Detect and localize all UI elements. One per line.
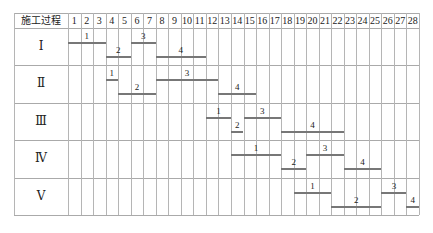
work-bar-label: 1	[206, 106, 231, 116]
grid-line	[14, 65, 419, 66]
header-day: 26	[381, 13, 394, 28]
header-day: 19	[294, 13, 307, 28]
work-bar-label: 3	[244, 106, 282, 116]
work-bar	[344, 168, 382, 170]
grid-line	[14, 13, 419, 14]
work-bar-label: 2	[106, 45, 131, 55]
work-bar	[231, 154, 281, 156]
work-bar-label: 1	[106, 68, 119, 78]
grid-line	[419, 13, 420, 215]
header-day: 2	[81, 13, 94, 28]
process-row-label: Ⅳ	[14, 140, 68, 177]
grid-line	[14, 28, 419, 29]
header-day: 28	[406, 13, 419, 28]
header-day: 23	[344, 13, 357, 28]
work-bar	[218, 93, 256, 95]
work-bar	[244, 117, 282, 119]
grid-line	[156, 13, 157, 215]
process-row-label: Ⅱ	[14, 65, 68, 102]
grid-line	[14, 103, 419, 104]
header-day: 15	[244, 13, 257, 28]
grid-line	[168, 13, 169, 215]
header-day: 21	[319, 13, 332, 28]
work-bar-label: 2	[281, 157, 306, 167]
header-day: 20	[306, 13, 319, 28]
work-bar	[106, 56, 131, 58]
work-bar	[118, 93, 156, 95]
work-bar-label: 2	[118, 82, 156, 92]
work-bar	[206, 117, 231, 119]
grid-line	[281, 13, 282, 215]
grid-line	[331, 13, 332, 215]
header-day: 6	[131, 13, 144, 28]
work-bar	[106, 79, 119, 81]
grid-line	[406, 13, 407, 215]
header-day: 17	[269, 13, 282, 28]
grid-line	[106, 13, 107, 215]
header-day: 22	[331, 13, 344, 28]
work-bar-label: 4	[156, 45, 206, 55]
work-bar-label: 4	[218, 82, 256, 92]
header-day: 16	[256, 13, 269, 28]
header-day: 12	[206, 13, 219, 28]
gantt-schedule-table: 施工过程 12345678910111213141516171819202122…	[14, 13, 419, 215]
work-bar	[281, 168, 306, 170]
work-bar	[281, 131, 344, 133]
header-day: 13	[218, 13, 231, 28]
header-day: 25	[369, 13, 382, 28]
process-row-label: Ⅲ	[14, 103, 68, 140]
grid-line	[181, 13, 182, 215]
work-bar-label: 4	[344, 157, 382, 167]
work-bar	[231, 131, 244, 133]
work-bar-label: 2	[331, 195, 381, 205]
grid-line	[14, 215, 419, 216]
header-day: 8	[156, 13, 169, 28]
work-bar	[406, 206, 419, 208]
grid-line	[14, 140, 419, 141]
work-bar-label: 1	[68, 31, 106, 41]
grid-line	[193, 13, 194, 215]
work-bar	[156, 56, 206, 58]
work-bar	[294, 192, 332, 194]
header-day: 1	[68, 13, 81, 28]
header-day: 27	[394, 13, 407, 28]
header-day: 7	[143, 13, 156, 28]
header-day: 5	[118, 13, 131, 28]
header-process-label: 施工过程	[14, 13, 68, 28]
grid-line	[344, 13, 345, 215]
grid-line	[356, 13, 357, 215]
work-bar	[306, 154, 344, 156]
header-day: 10	[181, 13, 194, 28]
header-day: 9	[168, 13, 181, 28]
work-bar-label: 4	[406, 195, 419, 205]
header-day: 14	[231, 13, 244, 28]
grid-line	[14, 178, 419, 179]
work-bar-label: 3	[381, 181, 406, 191]
work-bar-label: 4	[281, 120, 344, 130]
process-row-label: Ⅴ	[14, 178, 68, 215]
header-day: 3	[93, 13, 106, 28]
work-bar	[331, 206, 381, 208]
header-day: 18	[281, 13, 294, 28]
work-bar	[381, 192, 406, 194]
process-row-label: Ⅰ	[14, 28, 68, 65]
grid-line	[231, 13, 232, 215]
header-day: 4	[106, 13, 119, 28]
work-bar	[131, 42, 156, 44]
work-bar-label: 1	[231, 143, 281, 153]
header-day: 24	[356, 13, 369, 28]
work-bar-label: 2	[231, 120, 244, 130]
header-day: 11	[193, 13, 206, 28]
work-bar-label: 3	[131, 31, 156, 41]
work-bar-label: 3	[306, 143, 344, 153]
grid-line	[118, 13, 119, 215]
work-bar	[68, 42, 106, 44]
work-bar-label: 3	[156, 68, 219, 78]
work-bar	[156, 79, 219, 81]
work-bar-label: 1	[294, 181, 332, 191]
grid-line	[369, 13, 370, 215]
